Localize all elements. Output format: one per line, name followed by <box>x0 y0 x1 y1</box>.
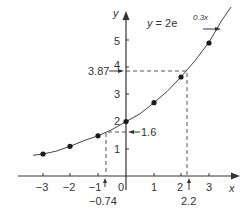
annotation-3-87: 3.87 <box>88 65 109 77</box>
x-tick-label: −2 <box>63 181 76 193</box>
y-tick-label: 1 <box>114 143 120 155</box>
annotation-neg-0-74: −0.74 <box>89 195 117 207</box>
annotation-1-6: 1.6 <box>141 126 156 138</box>
y-tick-label: 3 <box>114 88 120 100</box>
equation-label: y = 2e <box>146 17 177 29</box>
x-tick-label: −1 <box>89 181 102 193</box>
y-axis-label: y <box>112 7 120 19</box>
arrow-icon <box>103 178 107 183</box>
y-tick-label: 5 <box>114 35 120 47</box>
equation-exponent: 0.3x <box>193 13 209 22</box>
y-axis-arrow-icon <box>123 11 130 20</box>
x-axis-arrow-icon <box>231 173 240 180</box>
x-tick-label: −3 <box>36 181 49 193</box>
annotation-2-2: 2.2 <box>181 195 196 207</box>
x-tick-label: 2 <box>177 181 183 193</box>
x-tick-label: 3 <box>206 181 212 193</box>
arrow-icon <box>118 69 124 73</box>
y-tick-label: 4 <box>114 59 120 71</box>
arrow-icon <box>128 130 134 134</box>
x-tick-label: 0 <box>118 181 124 193</box>
x-axis-label: x <box>228 182 235 194</box>
arrow-icon <box>187 178 191 183</box>
x-tick-label: 1 <box>151 181 157 193</box>
chart: −3 −2 −1 0 1 2 3 x 1 2 3 4 5 y y = 2e 0.… <box>0 0 247 216</box>
